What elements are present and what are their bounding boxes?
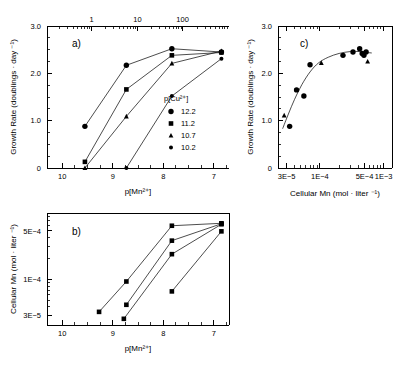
panel-b-series [97,221,224,321]
panel-b-ylabel: Cellular Mn (mol · liter ⁻¹) [9,224,18,314]
panel-b-x-ticklabel: 8 [161,329,165,338]
panel-b-x-ticklabel: 9 [111,329,115,338]
panel-c-point [365,59,370,64]
panel-c-point [294,87,299,92]
panel-a-point-12.2 [169,46,174,51]
panel-b-x-ticklabel: 7 [212,329,216,338]
panel-c-point [350,49,355,54]
panel-a-legend-title: p[Cu²⁺] [164,94,188,103]
panel-a-point-10.2 [219,57,223,61]
panel-a-top-ticks: 110100 [60,15,228,31]
panel-c-point [363,49,368,54]
panel-a-point-11.2 [170,53,175,58]
panel-a-series-line-10.7 [85,51,222,168]
panel-b-y-ticks: 3E−51E−45E−4 [23,217,52,321]
panel-b-point-12.2 [124,279,129,284]
panel-b-point-10.7 [219,222,224,227]
panel-b-xlabel: p[Mn²⁺] [125,344,152,353]
panel-c-point [301,93,306,98]
panel-b-series-line-10.2 [172,231,222,291]
panel-a-x-ticklabel: 10 [58,172,66,181]
panel-b-x-ticklabel: 10 [58,329,66,338]
panel-c-ylabel: Growth Rate (doublings · day ⁻¹) [246,39,255,155]
panel-a-y-ticks: 01.02.03.0 [31,22,52,173]
panel-c-chart: 01.02.03.03E−51E−45E−41E−3c)Growth Rate … [240,0,407,205]
panel-a-letter: a) [72,38,81,49]
panel-b-chart: 3E−51E−45E−410987b)Cellular Mn (mol · li… [0,195,240,366]
panel-a-legend: p[Cu²⁺]12.211.210.710.2 [164,94,196,152]
panel-b-point-12.2 [170,223,175,228]
panel-a-ylabel: Growth Rate (doublings · day ⁻¹) [9,39,18,155]
panel-c-point [340,53,345,58]
panel-c-point [307,62,312,67]
panel-a-series-line-11.2 [85,53,222,162]
panel-b-y-ticklabel: 3E−5 [23,311,41,320]
panel-c-point [287,124,292,129]
panel-b-point-11.2 [170,238,175,243]
panel-b-letter: b) [72,226,81,237]
panel-a-legend-marker-10.7 [169,133,174,138]
panel-a-legend-marker-11.2 [169,121,174,126]
panel-b-point-11.2 [124,302,129,307]
panel-c-letter: c) [300,38,308,49]
panel-c-point [282,113,287,118]
panel-a-point-12.2 [124,63,129,68]
panel-c-x-ticklabel: 1E−3 [375,172,393,181]
panel-a-x-ticklabel: 9 [111,172,115,181]
panel-b-series-line-12.2 [99,223,221,312]
panel-a-y-ticklabel: 0 [37,164,41,173]
panel-a-y-ticklabel: 1.0 [31,116,41,125]
panel-c-point [357,46,362,51]
panel-a-point-11.2 [83,160,88,165]
panel-c-xlabel: Cellular Mn (mol · liter ⁻¹) [290,189,380,198]
panel-c-y-ticklabel: 0 [268,164,272,173]
panel-c-point [319,60,324,65]
panel-c-y-ticks: 01.02.03.0 [262,22,283,173]
figure-container: 01.02.03.010987110100a)p[Cu²⁺]12.211.210… [0,0,407,366]
panel-a-series [82,46,224,170]
panel-b-x-ticks: 10987 [58,320,226,338]
panel-a-top-ticklabel: 100 [176,15,189,24]
panel-a-top-ticklabel: 10 [133,15,141,24]
panel-a-legend-label: 10.2 [181,143,196,152]
panel-a-y-ticklabel: 2.0 [31,69,41,78]
panel-c-x-ticks: 3E−51E−45E−41E−3 [278,26,393,181]
panel-a-series-line-12.2 [85,49,222,127]
panel-c-x-ticklabel: 5E−4 [356,172,374,181]
panel-a-legend-label: 11.2 [181,119,195,128]
panel-a-legend-label: 10.7 [181,131,196,140]
panel-b-point-10.2 [170,289,175,294]
panel-b-point-10.2 [219,229,224,234]
panel-b-y-ticklabel: 1E−4 [23,275,41,284]
panel-b-y-ticklabel: 5E−4 [23,227,41,236]
panel-a-series-line-10.2 [126,59,221,168]
panel-a-x-ticks: 10987 [58,163,226,181]
panel-c-axes [278,26,392,168]
panel-a-legend-marker-12.2 [168,109,173,114]
panel-a-x-ticklabel: 8 [161,172,165,181]
panel-c-y-ticklabel: 3.0 [262,22,272,31]
panel-c-y-ticklabel: 1.0 [262,116,272,125]
panel-b-point-10.7 [170,252,175,257]
panel-c-y-ticklabel: 2.0 [262,69,272,78]
panel-b-point-12.2 [97,310,102,315]
panel-a-legend-label: 12.2 [181,107,196,116]
panel-a-chart: 01.02.03.010987110100a)p[Cu²⁺]12.211.210… [0,0,240,200]
panel-c-x-ticklabel: 1E−4 [311,172,329,181]
panel-a-point-12.2 [82,124,87,129]
panel-a-y-ticklabel: 3.0 [31,22,41,31]
panel-b-point-10.7 [122,317,127,322]
panel-a-top-ticklabel: 1 [90,15,94,24]
panel-a-legend-marker-10.2 [169,146,173,150]
panel-a-point-10.2 [124,166,128,170]
panel-a-point-11.2 [124,87,129,92]
panel-c-x-ticklabel: 3E−5 [278,172,296,181]
panel-a-x-ticklabel: 7 [212,172,216,181]
